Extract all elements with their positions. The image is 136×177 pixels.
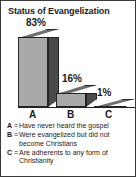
chart-plot-area: 83% 16% 1% A B C [1, 17, 136, 121]
legend-description-b: Were evangelized but did not become Chri… [19, 131, 133, 148]
bar-a [18, 29, 48, 107]
evangelization-chart-card: Status of Evangelization 83% 16% 1% A B … [0, 0, 136, 177]
legend-description-c: Are adherents to any form of Christianit… [19, 149, 133, 166]
bar-a-front-face [18, 37, 48, 107]
bar-b [56, 85, 86, 107]
legend-item-c: C = Are adherents to any form of Christi… [7, 149, 133, 166]
bar-b-front-face [56, 93, 86, 107]
chart-title: Status of Evangelization [8, 6, 110, 16]
bar-value-label-b: 16% [62, 73, 82, 84]
bar-value-label-c: 1% [97, 87, 111, 98]
legend-item-b: B = Were evangelized but did not become … [7, 131, 133, 148]
chart-legend: A = Have never heard the gospel B = Were… [7, 122, 133, 166]
chart-baseline [18, 107, 135, 108]
bar-value-label-a: 83% [26, 17, 46, 28]
legend-item-a: A = Have never heard the gospel [7, 122, 133, 131]
axis-tick-label-b: B [67, 109, 74, 120]
legend-description-a: Have never heard the gospel [19, 122, 133, 131]
axis-tick-label-c: C [105, 109, 112, 120]
axis-tick-label-a: A [29, 109, 36, 120]
